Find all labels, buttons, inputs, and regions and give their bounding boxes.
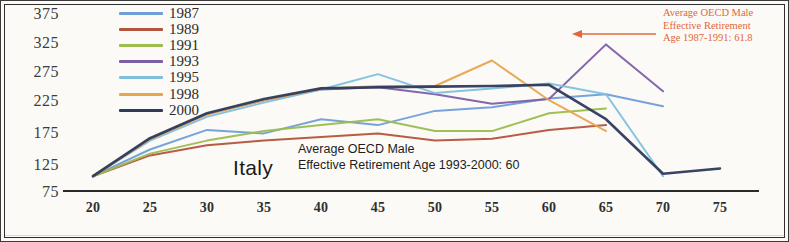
legend-item[interactable]: 1987 [119,5,199,21]
legend-swatch-icon [119,60,163,63]
legend-item[interactable]: 1998 [119,86,199,102]
legend-swatch-icon [119,93,163,96]
legend-label: 1991 [169,38,199,53]
legend-swatch-icon [119,12,163,15]
annotation-bottom: Average OECD Male Effective Retirement A… [298,141,519,173]
annotation-top-right-line1: Average OECD Male [663,7,788,20]
legend: 1987198919911993199519982000 [119,5,199,118]
legend-item[interactable]: 1989 [119,21,199,37]
legend-label: 2000 [169,103,199,118]
legend-label: 1993 [169,54,199,69]
legend-label: 1989 [169,22,199,37]
legend-swatch-icon [119,76,163,79]
country-label: Italy [233,156,273,180]
legend-label: 1995 [169,70,199,85]
annotation-arrow [572,30,656,38]
legend-label: 1998 [169,87,199,102]
legend-item[interactable]: 2000 [119,102,199,118]
legend-item[interactable]: 1995 [119,70,199,86]
legend-item[interactable]: 1991 [119,37,199,53]
legend-swatch-icon [119,28,163,31]
legend-swatch-icon [119,109,163,112]
annotation-bottom-line2: Effective Retirement Age 1993-2000: 60 [298,157,519,173]
scan-artifact-line [5,235,785,236]
annotation-top-right: Average OECD Male Effective Retirement A… [663,7,788,45]
legend-swatch-icon [119,44,163,47]
legend-label: 1987 [169,6,199,21]
annotation-top-right-line2: Effective Retirement [663,20,788,33]
chart-frame: 375 325 275 225 175 125 75 20 25 30 35 4… [0,0,789,242]
annotation-top-right-line3: Age 1987-1991: 61.8 [663,32,788,45]
legend-item[interactable]: 1993 [119,54,199,70]
annotation-bottom-line1: Average OECD Male [298,141,519,157]
